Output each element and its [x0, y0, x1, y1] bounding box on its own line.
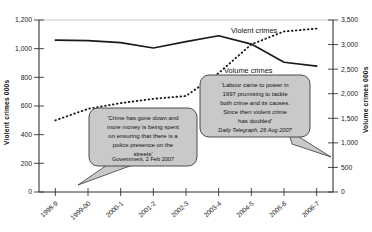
right-tick-label: 1,000 — [341, 139, 358, 146]
callout-government-line: police presence on the — [113, 142, 174, 148]
left-tick-label: 800 — [21, 74, 33, 81]
callout-telegraph-line: Since then violent crime — [223, 109, 287, 115]
callout-telegraph-line: 1997 promising to tackle — [222, 91, 288, 97]
crime-statistics-chart: 02004006008001,0001,200 Violent crimes 0… — [0, 0, 372, 232]
left-tick-label: 400 — [21, 131, 33, 138]
callout-government-line: 'Crime has gone down and — [107, 115, 178, 121]
right-tick-label: 2,000 — [341, 90, 358, 97]
right-axis-title: Volume crimes 000s — [362, 66, 369, 133]
right-tick-label: 2,500 — [341, 66, 358, 73]
right-tick-label: 500 — [341, 164, 353, 171]
left-tick-label: 1,200 — [15, 16, 32, 23]
left-tick-label: 200 — [21, 160, 33, 167]
volume-crimes-series-label: Volume crimes — [224, 66, 273, 75]
callout-telegraph-line: both crime and its causes. — [220, 100, 290, 106]
callout-government-line: on ensuring that there is a — [108, 133, 178, 139]
callout-telegraph-source: Daily Telegraph, 26 Aug 2007 — [218, 127, 292, 133]
callout-telegraph-line: has doubled' — [238, 118, 272, 124]
callout-government-line: more money is being spent — [107, 124, 179, 130]
callout-government-source: Government, 2 Feb 2007 — [112, 156, 174, 162]
left-tick-label: 1,000 — [15, 45, 32, 52]
left-tick-label: 0 — [28, 188, 32, 195]
callout-telegraph-line: 'Labour came to power in — [221, 82, 288, 88]
right-tick-label: 3,000 — [341, 41, 358, 48]
left-tick-label: 600 — [21, 102, 33, 109]
left-axis-title: Violent crimes 000s — [3, 80, 10, 145]
right-tick-label: 3,500 — [341, 16, 358, 23]
right-tick-label: 0 — [341, 188, 345, 195]
right-tick-label: 1,500 — [341, 115, 358, 122]
violent-crimes-series-label: Violent crimes — [231, 26, 278, 35]
